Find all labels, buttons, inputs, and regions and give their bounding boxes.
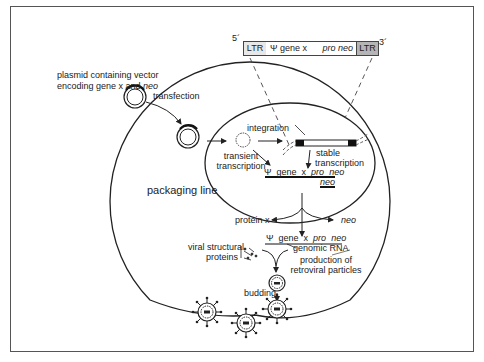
diagram-canvas [0,0,484,362]
viral-structural-label-line2: proteins [188,252,238,262]
five-prime-label: 5´ [232,33,240,43]
transfected-plasmid-icon [177,125,199,148]
genomic-rna-label: genomic RNA [293,243,349,253]
transient-label-line2: transcription [213,161,269,171]
vector-body: Ψ gene x pro neo [266,41,357,56]
budding-label: budding [244,288,276,298]
production-label-line1: production of [285,255,367,265]
ltr-left: LTR [243,41,267,56]
transient-label-line1: transient [213,151,269,161]
ltr-right: LTR [356,41,379,56]
psi-gene-x-label: Ψ gene x [270,42,307,55]
released-virion-icon [192,297,223,328]
budding-virion-icon [262,294,293,325]
stable-label-line1: stable [316,148,340,158]
plasmid-label-line2: encoding gene x and neo [57,81,158,91]
genomic-rna-sequence-label: Ψ gene x pro neo [266,233,346,243]
transfection-label: transfection [153,91,200,101]
production-label-line2: retroviral particles [285,265,367,275]
three-prime-label: 3´ [379,37,387,47]
neo-transcript-label: neo [320,177,335,187]
neo-product-label: neo [341,215,356,225]
mrna-label: Ψ gene x pro neo [264,167,344,177]
released-virion-icon [231,308,262,339]
integration-label: integration [247,123,289,133]
pro-neo-label: pro neo [322,42,353,55]
viral-structural-label-line1: viral structural [188,242,238,252]
protein-x-label: protein x [235,215,270,225]
packaging-line-label: packaging line [147,185,217,195]
plasmid-label-line1: plasmid containing vector [57,70,159,80]
